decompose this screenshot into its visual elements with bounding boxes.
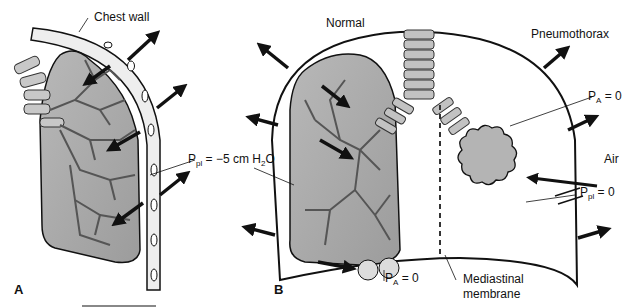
label-pleural-pressure-a: Ppl = −5 cm H2O [188,152,275,171]
illustration [0,0,636,307]
label-alveolar-pressure-collapsed: PA = 0 [588,89,622,108]
figure: Chest wall Ppl = −5 cm H2O A Normal Pneu… [0,0,636,307]
panel-letter-b: B [274,282,283,297]
panel-a-drawing [13,18,195,290]
normal-lung [290,54,400,265]
label-chest-wall: Chest wall [94,10,149,24]
panel-letter-a: A [14,282,23,297]
label-mediastinal-membrane-2: membrane [463,287,520,301]
label-pneumothorax: Pneumothorax [531,27,609,41]
label-normal: Normal [326,16,365,30]
label-alveolar-pressure-normal: PA = 0 [385,271,419,290]
panel-b-drawing [248,30,605,285]
label-air: Air [604,152,619,166]
label-pleural-pressure-b: Ppl = 0 [580,185,615,204]
label-mediastinal-membrane-1: Mediastinal [463,272,524,286]
